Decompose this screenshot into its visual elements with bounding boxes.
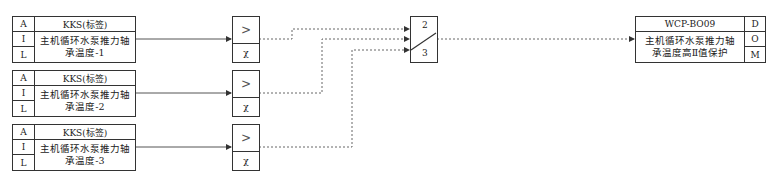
l-cell: L: [13, 101, 35, 116]
input-block-2: A KKS(标签) I L 主机循环水泵推力轴 承温度-2: [12, 70, 136, 117]
output-block: WCP-BO09 D O M 主机循环水泵推力轴 承温度高Ⅱ值保护: [635, 16, 766, 63]
l-cell: L: [13, 155, 35, 170]
comparator-block-3: > χ: [232, 124, 260, 171]
comparator-block-1: > χ: [232, 16, 260, 63]
input-block-1: A KKS(标签) I L 主机循环水泵推力轴 承温度-1: [12, 16, 136, 63]
l-cell: L: [13, 47, 35, 62]
vote-denominator: 3: [422, 48, 428, 58]
tag-cell: KKS(标签): [35, 17, 135, 32]
description-cell: 主机循环水泵推力轴 承温度高Ⅱ值保护: [636, 32, 745, 62]
tag-cell: KKS(标签): [35, 71, 135, 86]
o-cell: O: [745, 32, 765, 47]
chi-symbol: χ: [233, 152, 259, 170]
description-cell: 主机循环水泵推力轴 承温度-3: [35, 140, 135, 170]
tag-cell: WCP-BO09: [636, 17, 745, 32]
chi-symbol: χ: [233, 98, 259, 116]
input-block-3: A KKS(标签) I L 主机循环水泵推力轴 承温度-3: [12, 124, 136, 171]
greater-than-icon: >: [233, 125, 259, 152]
chi-symbol: χ: [233, 44, 259, 62]
vote-numerator: 2: [422, 20, 428, 30]
i-cell: I: [13, 140, 35, 155]
tag-cell: KKS(标签): [35, 125, 135, 140]
two-of-three-vote-block: 2 3: [410, 16, 438, 63]
i-cell: I: [13, 86, 35, 101]
d-cell: D: [745, 17, 765, 32]
description-cell: 主机循环水泵推力轴 承温度-1: [35, 32, 135, 62]
a-cell: A: [13, 71, 35, 86]
i-cell: I: [13, 32, 35, 47]
a-cell: A: [13, 125, 35, 140]
greater-than-icon: >: [233, 17, 259, 44]
greater-than-icon: >: [233, 71, 259, 98]
comparator-block-2: > χ: [232, 70, 260, 117]
description-cell: 主机循环水泵推力轴 承温度-2: [35, 86, 135, 116]
a-cell: A: [13, 17, 35, 32]
m-cell: M: [745, 47, 765, 62]
